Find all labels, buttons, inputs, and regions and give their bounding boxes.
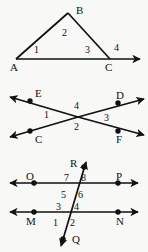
angle-label-pt-6: 6	[78, 190, 83, 200]
point-label-e: E	[35, 88, 42, 99]
point-label-c: C	[105, 62, 112, 73]
point-label-a: A	[10, 62, 18, 73]
point-c-dot	[27, 128, 32, 133]
angle-label-tri-4: 4	[114, 43, 119, 53]
angle-label-pt-8: 8	[81, 173, 86, 183]
point-m-dot	[31, 209, 36, 214]
angle-label-x-1: 1	[44, 110, 49, 120]
angle-label-x-2: 2	[74, 122, 79, 132]
angle-label-tri-1: 1	[34, 45, 39, 55]
angle-label-x-3: 3	[104, 113, 109, 123]
point-label-b: B	[76, 5, 83, 16]
point-label-r: R	[70, 158, 77, 169]
angle-label-pt-1: 1	[53, 218, 58, 228]
point-label-q: Q	[72, 234, 80, 245]
ray-toward-f-end	[78, 117, 144, 135]
point-r-dot	[81, 164, 86, 169]
ray-toward-d-end	[78, 99, 144, 117]
angle-label-pt-3: 3	[56, 202, 61, 212]
point-label-o: O	[26, 171, 34, 182]
point-e-dot	[27, 98, 32, 103]
point-label-m: M	[26, 216, 36, 227]
point-label-f: F	[116, 134, 122, 145]
angle-label-pt-4: 4	[74, 202, 79, 212]
angle-label-pt-7: 7	[64, 173, 69, 183]
angle-label-tri-3: 3	[85, 45, 90, 55]
point-d-dot	[115, 100, 120, 105]
ray-toward-c-end	[10, 117, 78, 137]
point-q-dot	[60, 236, 65, 241]
angle-label-pt-5: 5	[61, 190, 66, 200]
angle-label-pt-2: 2	[70, 218, 75, 228]
point-n-dot	[115, 209, 120, 214]
segment-ab	[16, 13, 68, 59]
point-label-c2: C	[35, 134, 42, 145]
point-label-p: P	[116, 171, 122, 182]
geometry-figure-sheet: A B C 1 2 3 4 E C D F 1 2 3 4 O P M N R …	[0, 0, 148, 252]
point-label-d: D	[116, 90, 124, 101]
angle-label-tri-2: 2	[62, 28, 67, 38]
angle-label-x-4: 4	[74, 101, 79, 111]
point-label-n: N	[116, 216, 124, 227]
